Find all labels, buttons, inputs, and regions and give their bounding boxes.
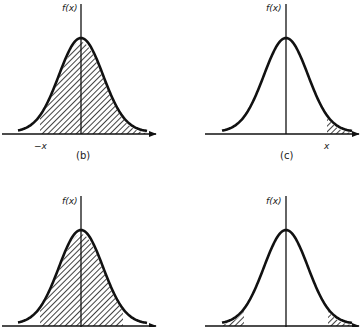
y-axis-label: f(x) — [62, 3, 78, 13]
bell-curve — [222, 38, 352, 131]
panel-c: f(x) x (c) — [205, 3, 359, 161]
panel-caption: (c) — [280, 150, 293, 161]
panel-caption: (b) — [76, 150, 90, 161]
panel-e: f(x) — [205, 196, 359, 327]
y-axis-label: f(x) — [62, 196, 78, 206]
bell-curve — [222, 230, 352, 323]
y-axis-label: f(x) — [266, 196, 282, 206]
tick-label-minus-x: −x — [34, 141, 48, 151]
normal-distribution-figure: f(x) −x (b) f(x) x (c) f(x) f(x) — [0, 0, 362, 327]
panel-d: f(x) — [2, 196, 156, 327]
tick-label-x: x — [323, 141, 330, 151]
shaded-area-right-of-minus-x — [40, 42, 147, 134]
y-axis-label: f(x) — [266, 3, 282, 13]
panel-b: f(x) −x (b) — [2, 3, 156, 161]
